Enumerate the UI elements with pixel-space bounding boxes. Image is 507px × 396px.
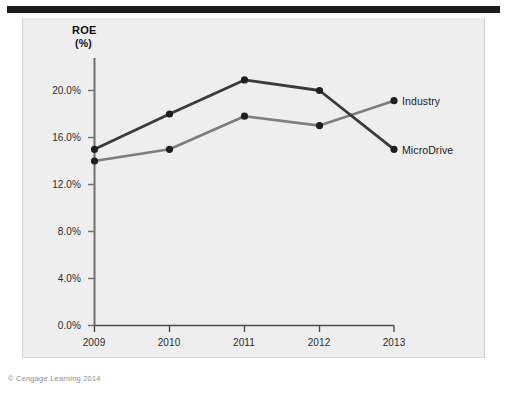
data-point	[241, 113, 248, 120]
y-tick-label: 12.0%	[33, 179, 81, 190]
data-point	[241, 76, 248, 83]
figure-container: ROE (%)	[0, 0, 507, 396]
data-point	[91, 157, 98, 164]
data-point	[316, 87, 323, 94]
series-label-industry: Industry	[402, 95, 440, 107]
data-point	[316, 122, 323, 129]
data-point	[166, 146, 173, 153]
x-tick-label: 2011	[221, 337, 267, 348]
y-tick-label: 4.0%	[33, 273, 81, 284]
y-tick-label: 8.0%	[33, 226, 81, 237]
x-tick-label: 2010	[146, 337, 192, 348]
y-tick-label: 0.0%	[33, 320, 81, 331]
data-point	[91, 146, 98, 153]
series-label-microdrive: MicroDrive	[402, 144, 453, 156]
x-tick-marks	[95, 326, 395, 333]
x-tick-label: 2013	[371, 337, 417, 348]
y-tick-label: 16.0%	[33, 132, 81, 143]
data-point	[390, 146, 397, 153]
y-tick-label: 20.0%	[33, 85, 81, 96]
series-line-industry	[95, 101, 395, 161]
x-tick-label: 2012	[296, 337, 342, 348]
x-tick-label: 2009	[71, 337, 117, 348]
copyright-credit: © Cengage Learning 2014	[8, 374, 101, 383]
data-point	[390, 97, 397, 104]
data-point	[166, 110, 173, 117]
